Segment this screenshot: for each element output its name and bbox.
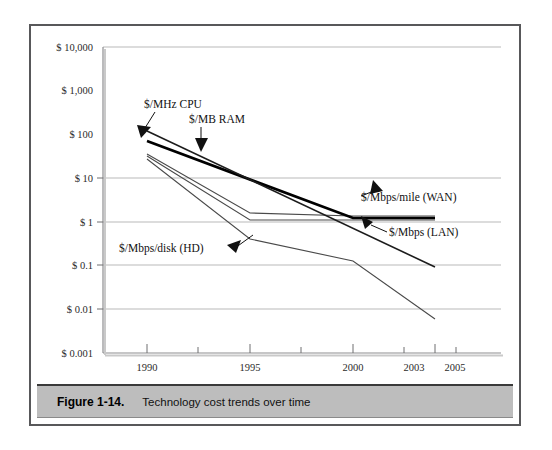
figure-container: $ 10,000 $ 1,000 $ 100 $ 10 $ 1 $ 0.1 $ …: [29, 24, 521, 426]
xtick-label-2005: 2005: [445, 362, 466, 373]
series-line-ram: [147, 141, 435, 218]
figure-caption-text: Technology cost trends over time: [142, 396, 310, 408]
technology-cost-trends-chart: $ 10,000 $ 1,000 $ 100 $ 10 $ 1 $ 0.1 $ …: [31, 26, 519, 378]
ytick-label-1: $ 1: [80, 217, 93, 228]
series-line-wan: [147, 154, 435, 216]
annotation-ram: $/MB RAM: [189, 113, 245, 152]
annotation-arrow-ram: [195, 138, 208, 152]
xtick-label-1990: 1990: [137, 362, 158, 373]
ytick-label-0.001: $ 0.001: [62, 348, 94, 359]
annotation-label-wan: $/Mbps/mile (WAN): [361, 191, 457, 204]
annotation-label-lan: $/Mbps (LAN): [389, 226, 458, 239]
gridlines: [103, 47, 501, 309]
xtick-label-1995: 1995: [240, 362, 261, 373]
annotation-label-cpu: $/MHz CPU: [144, 98, 203, 110]
xtick-label-2000: 2000: [343, 362, 364, 373]
ytick-label-10: $ 10: [75, 173, 93, 184]
annotation-label-disk: $/Mbps/disk (HD): [119, 242, 204, 255]
ytick-label-100: $ 100: [69, 129, 93, 140]
y-tickmarks: [97, 178, 103, 309]
annotation-disk: $/Mbps/disk (HD): [119, 235, 253, 255]
figure-caption-label: Figure 1-14.: [57, 395, 124, 409]
xtick-label-2003: 2003: [404, 362, 425, 373]
x-tickmarks: [147, 344, 456, 353]
ytick-label-0.01: $ 0.01: [67, 304, 93, 315]
annotation-arrow-disk: [227, 240, 241, 253]
ytick-label-10000: $ 10,000: [56, 42, 93, 53]
annotation-label-ram: $/MB RAM: [189, 113, 245, 125]
ytick-label-0.1: $ 0.1: [72, 260, 93, 271]
ytick-label-1000: $ 1,000: [62, 85, 94, 96]
y-tick-labels: $ 10,000 $ 1,000 $ 100 $ 10 $ 1 $ 0.1 $ …: [56, 42, 93, 359]
annotation-wan: $/Mbps/mile (WAN): [361, 180, 457, 204]
x-tick-labels: 1990 1995 2000 2003 2005: [137, 362, 466, 373]
chart-plot-region: $ 10,000 $ 1,000 $ 100 $ 10 $ 1 $ 0.1 $ …: [31, 26, 519, 378]
series-line-lan: [147, 156, 435, 220]
figure-caption-bar: Figure 1-14. Technology cost trends over…: [37, 384, 513, 418]
